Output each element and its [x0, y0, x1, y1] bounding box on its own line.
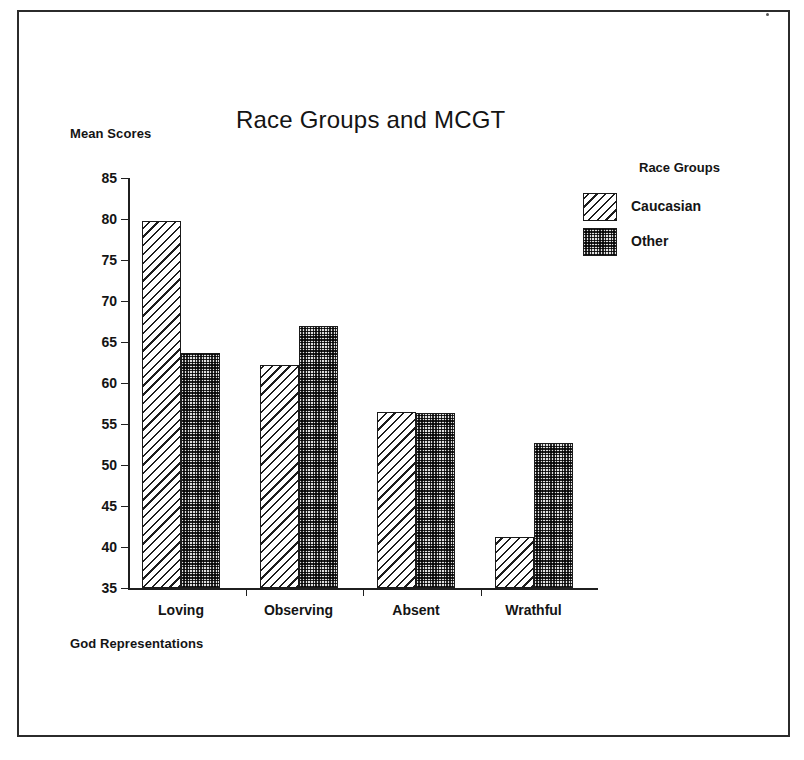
- y-tick: [121, 301, 128, 302]
- bar-absent-other: [416, 413, 455, 588]
- y-tick-label: 65: [79, 335, 117, 349]
- x-category-label-observing: Observing: [234, 602, 364, 618]
- bar-loving-other: [181, 353, 220, 588]
- y-tick-label: 45: [79, 499, 117, 513]
- y-tick-label: 35: [79, 581, 117, 595]
- x-category-label-absent: Absent: [351, 602, 481, 618]
- bar-loving-caucasian: [142, 221, 181, 588]
- x-tick: [481, 588, 482, 596]
- legend-label-other: Other: [631, 233, 668, 249]
- x-axis-title: God Representations: [70, 636, 203, 651]
- y-tick: [121, 219, 128, 220]
- bar-wrathful-caucasian: [495, 537, 534, 588]
- y-tick-label: 75: [79, 253, 117, 267]
- x-category-label-loving: Loving: [116, 602, 246, 618]
- y-tick: [121, 465, 128, 466]
- legend-label-caucasian: Caucasian: [631, 198, 701, 214]
- legend-title: Race Groups: [639, 160, 720, 175]
- y-tick: [121, 424, 128, 425]
- figure-area: Race Groups and MCGT Mean Scores God Rep…: [0, 0, 804, 760]
- plot-area: 3540455055606570758085 LovingObservingAb…: [128, 178, 598, 590]
- chart-title: Race Groups and MCGT: [236, 106, 536, 134]
- y-tick-label: 50: [79, 458, 117, 472]
- x-tick: [246, 588, 247, 596]
- y-tick-label: 80: [79, 212, 117, 226]
- y-tick: [121, 178, 128, 179]
- y-tick: [121, 342, 128, 343]
- y-tick: [121, 260, 128, 261]
- x-category-label-wrathful: Wrathful: [469, 602, 599, 618]
- bar-absent-caucasian: [377, 412, 416, 588]
- y-tick: [121, 506, 128, 507]
- y-tick-label: 40: [79, 540, 117, 554]
- y-tick-label: 85: [79, 171, 117, 185]
- y-tick: [121, 588, 128, 589]
- bar-observing-other: [299, 326, 338, 588]
- y-axis-title: Mean Scores: [70, 126, 151, 141]
- y-tick-label: 60: [79, 376, 117, 390]
- x-tick: [363, 588, 364, 596]
- bar-observing-caucasian: [260, 365, 299, 588]
- y-tick-label: 55: [79, 417, 117, 431]
- y-tick: [121, 547, 128, 548]
- bar-wrathful-other: [534, 443, 573, 588]
- y-axis-line: [128, 178, 130, 588]
- y-tick: [121, 383, 128, 384]
- y-tick-label: 70: [79, 294, 117, 308]
- scan-speck: [766, 13, 769, 16]
